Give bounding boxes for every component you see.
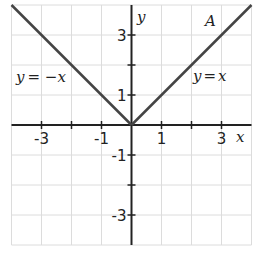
- x-tick-label: -3: [34, 130, 49, 148]
- x-tick-label: 3: [217, 130, 227, 148]
- y-tick-label: -3: [112, 207, 127, 225]
- x-axis-label: x: [236, 128, 245, 146]
- y-tick-label: 3: [117, 27, 127, 45]
- left-equation-label: y= −x: [15, 68, 66, 86]
- y-tick-label: 1: [117, 87, 127, 105]
- right-equation-label: y=x: [192, 67, 227, 85]
- y-tick-label: -1: [112, 147, 127, 165]
- curve-label-a: A: [203, 12, 216, 30]
- graph-container: -3-11331-1-3 y x A y= −x y=x: [0, 0, 262, 269]
- coordinate-plane: -3-11331-1-3 y x A y= −x y=x: [0, 0, 262, 269]
- y-axis-label: y: [136, 8, 146, 26]
- x-tick-label: 1: [157, 130, 167, 148]
- x-tick-label: -1: [94, 130, 109, 148]
